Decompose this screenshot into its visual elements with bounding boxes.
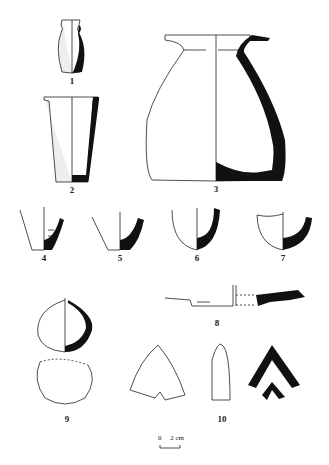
scale-bar [160,445,180,448]
scale-label: 0 2 cm [158,434,184,442]
label-3: 3 [206,184,226,194]
vessel-3 [146,35,285,181]
vessel-1 [58,20,84,73]
label-4: 4 [34,253,54,263]
vessel-9 [37,298,92,404]
vessel-4 [20,207,64,250]
scale-value: 2 cm [170,434,184,442]
label-7: 7 [273,253,293,263]
label-8: 8 [207,318,227,328]
label-6: 6 [187,253,207,263]
label-10: 10 [212,414,232,424]
vessel-2 [44,97,99,182]
label-9: 9 [57,414,77,424]
vessel-5 [92,212,144,250]
scale-zero: 0 [158,434,162,442]
label-1: 1 [62,76,82,86]
pottery-drawings [0,0,329,465]
label-5: 5 [110,253,130,263]
vessel-7 [257,212,312,250]
vessel-8 [165,285,305,306]
vessel-6 [172,208,220,250]
vessel-10 [130,344,300,400]
label-2: 2 [62,185,82,195]
